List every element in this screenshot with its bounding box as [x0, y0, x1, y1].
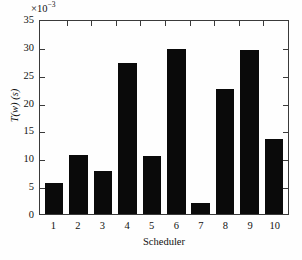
bar-cell	[140, 21, 164, 214]
y-axis-tick	[40, 77, 45, 78]
x-axis-top-tick	[67, 21, 68, 26]
bar-cell	[213, 21, 237, 214]
bar[interactable]	[45, 183, 64, 214]
bar-cell	[115, 21, 139, 214]
bar[interactable]	[216, 89, 235, 214]
bar-cell	[188, 21, 212, 214]
x-axis-tick-label: 3	[90, 218, 115, 234]
x-axis-top-tick	[214, 21, 215, 26]
y-axis-tick-label: 0	[0, 210, 34, 221]
bar-cell	[237, 21, 261, 214]
x-axis-top-tick	[116, 21, 117, 26]
x-axis-top-tick	[263, 21, 264, 26]
bar[interactable]	[240, 50, 259, 214]
y-axis-tick	[40, 105, 45, 106]
bar-series	[40, 21, 288, 214]
y-axis-tick-label: 15	[0, 126, 34, 137]
y-axis-tick-right	[283, 105, 288, 106]
y-axis-tick-label: 25	[0, 70, 34, 81]
bar-cell	[262, 21, 286, 214]
x-axis-tick-label: 7	[189, 218, 214, 234]
y-axis-tick	[40, 160, 45, 161]
y-axis-tick-label: 10	[0, 154, 34, 165]
bar[interactable]	[143, 156, 162, 214]
y-axis-tick-right	[283, 49, 288, 50]
y-axis-tick	[40, 132, 45, 133]
bar-cell	[66, 21, 90, 214]
bar[interactable]	[69, 155, 88, 214]
y-axis-tick-right	[283, 160, 288, 161]
y-axis-tick	[40, 49, 45, 50]
y-axis-multiplier-exponent: −3	[47, 0, 55, 9]
y-axis-tick-right	[283, 77, 288, 78]
x-axis-tick-label: 1	[41, 218, 66, 234]
bar-cell	[164, 21, 188, 214]
x-axis-tick-label: 10	[262, 218, 287, 234]
y-axis-multiplier-base: ×10	[31, 3, 47, 14]
y-axis-tick-right	[283, 132, 288, 133]
x-axis-tick-label: 2	[66, 218, 91, 234]
x-axis-top-tick	[190, 21, 191, 26]
y-axis-tick-label: 30	[0, 43, 34, 54]
x-axis-top-tick	[91, 21, 92, 26]
x-axis-top-tick	[140, 21, 141, 26]
bar[interactable]	[167, 49, 186, 214]
y-axis-tick-label: 20	[0, 98, 34, 109]
x-axis-top-tick	[239, 21, 240, 26]
bar[interactable]	[265, 139, 284, 214]
y-axis-tick-label: 35	[0, 15, 34, 26]
bar[interactable]	[94, 171, 113, 214]
x-axis-top-tick	[165, 21, 166, 26]
x-axis-tick-label: 9	[238, 218, 263, 234]
bar-chart-figure: ×10−3 T(w) (s) 05101520253035 1234567891…	[0, 0, 302, 260]
y-axis-tick-right	[283, 188, 288, 189]
x-axis-tick-label: 4	[115, 218, 140, 234]
x-axis-tick-label: 5	[139, 218, 164, 234]
y-axis-tick	[40, 188, 45, 189]
bar[interactable]	[118, 63, 137, 214]
bar[interactable]	[191, 203, 210, 214]
x-axis-tick-label: 8	[213, 218, 238, 234]
y-axis-tick-label: 5	[0, 182, 34, 193]
plot-area	[39, 20, 289, 215]
x-axis-title: Scheduler	[39, 236, 289, 247]
x-axis-tick-labels: 12345678910	[39, 218, 289, 234]
x-axis-tick-label: 6	[164, 218, 189, 234]
y-axis-multiplier-label: ×10−3	[31, 1, 55, 14]
bar-cell	[91, 21, 115, 214]
bar-cell	[42, 21, 66, 214]
